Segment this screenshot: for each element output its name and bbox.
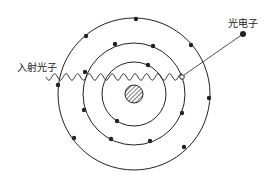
photoelectron-track: [184, 34, 243, 75]
electron: [113, 42, 117, 46]
photoelectron: [240, 31, 246, 37]
electrons: [56, 17, 211, 149]
electron: [56, 83, 60, 87]
nucleus: [125, 85, 143, 103]
electron: [182, 145, 186, 149]
electron: [84, 34, 88, 38]
electron: [83, 70, 87, 74]
electron: [134, 17, 138, 21]
electron: [148, 139, 152, 143]
electron: [151, 44, 155, 48]
photoelectron-label: 光电子: [228, 15, 258, 30]
electron: [146, 63, 150, 67]
electron: [115, 119, 119, 123]
electron: [109, 137, 113, 141]
electron: [180, 111, 184, 115]
electron: [189, 43, 193, 47]
electron: [72, 136, 76, 140]
electron-vacancy: [180, 75, 185, 80]
incident-photon-label: 入射光子: [17, 59, 57, 74]
electron: [82, 108, 86, 112]
electron: [207, 96, 211, 100]
